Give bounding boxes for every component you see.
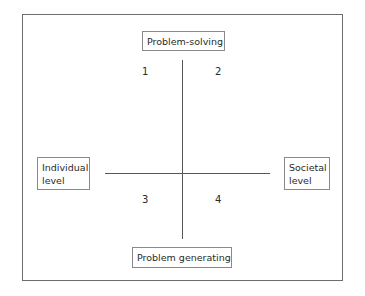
quadrant-1-label: 1 xyxy=(142,66,148,77)
quadrant-3-label: 3 xyxy=(142,194,148,205)
axis-label-societal-level: Societal level xyxy=(284,157,330,190)
axis-label-problem-generating: Problem generating xyxy=(132,247,232,268)
left-label-line1: Individual xyxy=(42,161,85,174)
axis-label-individual-level: Individual level xyxy=(37,157,90,190)
right-label-line2: level xyxy=(289,174,325,187)
vertical-axis xyxy=(182,60,183,239)
horizontal-axis xyxy=(105,173,270,174)
right-label-line1: Societal xyxy=(289,161,325,174)
axis-label-problem-solving: Problem-solving xyxy=(142,31,225,51)
left-label-line2: level xyxy=(42,174,85,187)
quadrant-2-label: 2 xyxy=(215,66,221,77)
quadrant-4-label: 4 xyxy=(215,194,221,205)
